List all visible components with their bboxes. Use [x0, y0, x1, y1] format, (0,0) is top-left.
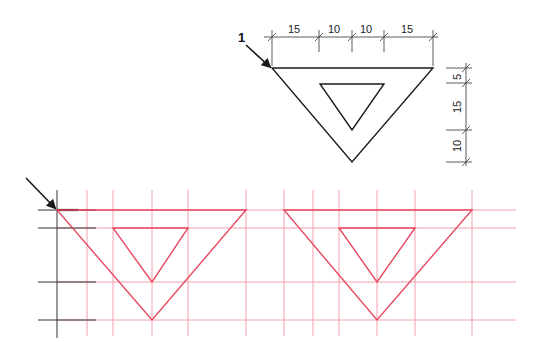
- horizontal-dimension-chain: [264, 30, 438, 66]
- left-inner-triangle: [113, 228, 188, 282]
- callout-arrow-icon: [246, 45, 270, 67]
- reference-figure: 1 15 10 10 15: [238, 23, 472, 166]
- inner-triangle: [320, 84, 384, 130]
- dim-h-4: 15: [401, 23, 413, 35]
- dim-h-2: 10: [328, 23, 340, 35]
- right-outer-triangle: [284, 210, 472, 320]
- start-arrow-icon: [26, 178, 55, 208]
- construction-grid: [26, 178, 516, 338]
- drawing-canvas: 1 15 10 10 15: [0, 0, 538, 342]
- dim-v-2: 15: [451, 101, 463, 113]
- outer-triangle: [272, 68, 433, 162]
- dim-h-1: 15: [288, 23, 300, 35]
- callout-label: 1: [238, 30, 245, 45]
- dim-v-3: 10: [451, 140, 463, 152]
- dim-v-1: 5: [451, 74, 463, 80]
- dim-h-3: 10: [360, 23, 372, 35]
